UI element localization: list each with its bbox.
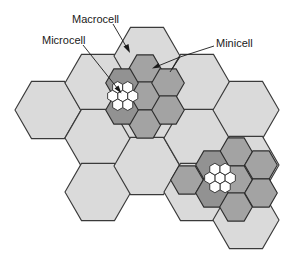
microcell-hex [123, 82, 133, 94]
minicell-label: Minicell [216, 37, 253, 49]
microcell-hex [220, 163, 230, 175]
microcell-hex [210, 163, 220, 175]
macrocell-label: Macrocell [72, 13, 119, 25]
microcell-hex [123, 99, 133, 111]
microcell-hex [220, 181, 230, 193]
cellular-hierarchy-diagram: Macrocell Microcell Minicell [0, 0, 292, 259]
microcell-label: Microcell [42, 34, 85, 46]
macrocell-leader-line [113, 24, 127, 48]
